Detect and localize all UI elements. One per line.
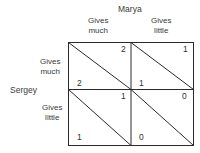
column-strategy-label-1: Gives much	[88, 16, 108, 36]
label-line: Gives	[151, 16, 171, 26]
payoff-sergey: 1	[77, 133, 82, 142]
payoff-marya: 0	[182, 92, 187, 101]
row-strategy-label-2: Gives little	[42, 103, 62, 123]
payoff-sergey: 0	[139, 133, 144, 142]
label-line: much	[88, 26, 108, 36]
label-line: little	[42, 113, 62, 123]
payoff-sergey: 2	[77, 79, 82, 88]
label-line: much	[40, 67, 60, 77]
payoff-marya: 2	[121, 45, 126, 54]
label-line: little	[151, 26, 171, 36]
label-line: Gives	[88, 16, 108, 26]
row-player-name: Sergey	[10, 85, 37, 95]
payoff-marya: 1	[121, 92, 126, 101]
payoff-sergey: 1	[139, 79, 144, 88]
column-strategy-label-2: Gives little	[151, 16, 171, 36]
label-line: Gives	[42, 103, 62, 113]
row-strategy-label-1: Gives much	[40, 57, 60, 77]
column-player-name: Marya	[118, 4, 142, 14]
label-line: Gives	[40, 57, 60, 67]
payoff-marya: 1	[183, 45, 188, 54]
